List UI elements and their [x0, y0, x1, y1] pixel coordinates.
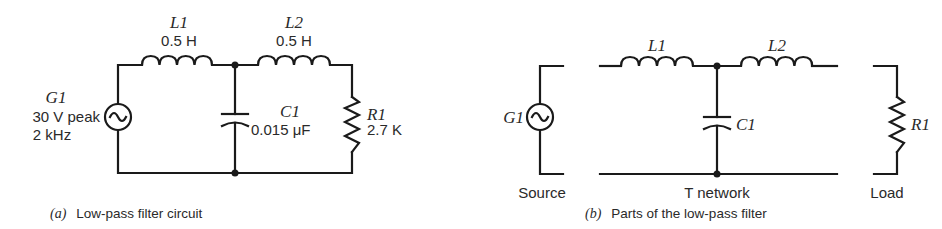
t-network-section: L1 L2 C1 T network — [600, 36, 837, 201]
resistor-r1-icon — [890, 97, 904, 152]
l2-value-label: 0.5 H — [276, 32, 312, 49]
inductor-l2-icon — [258, 56, 330, 65]
circuit-diagrams: L1 0.5 H L2 0.5 H G1 30 V peak 2 kHz C1 … — [0, 0, 942, 229]
l2-ref-label: L2 — [767, 36, 786, 55]
junction-dot-bottom — [232, 170, 239, 177]
g1-ref-label: G1 — [46, 88, 67, 107]
figure-a-low-pass-filter-circuit: L1 0.5 H L2 0.5 H G1 30 V peak 2 kHz C1 … — [32, 13, 402, 222]
figure-b-caption: (b) Parts of the low-pass filter — [585, 204, 767, 222]
l1-ref-label: L1 — [169, 13, 188, 32]
figure-b-parts-of-filter: G1 Source L1 L2 C1 T network — [503, 36, 930, 222]
junction-dot-top — [232, 62, 239, 69]
l2-ref-label: L2 — [284, 13, 303, 32]
c1-ref-label: C1 — [280, 102, 300, 121]
l1-ref-label: L1 — [647, 36, 666, 55]
source-g1-ref-label: G1 — [503, 108, 524, 127]
c1-value-label: 0.015 μF — [251, 121, 311, 138]
load-label: Load — [870, 184, 903, 201]
junction-dot-bottom — [714, 171, 721, 178]
inductor-l1-icon — [621, 57, 693, 66]
inductor-l2-icon — [741, 57, 812, 66]
r1-value-label: 2.7 K — [367, 121, 402, 138]
wire-top-right — [330, 65, 352, 97]
l1-value-label: 0.5 H — [161, 32, 197, 49]
ac-source-icon — [527, 104, 553, 130]
load-section: R1 Load — [870, 66, 930, 201]
t-network-label: T network — [684, 184, 750, 201]
source-section: G1 Source — [503, 66, 566, 201]
inductor-l1-icon — [142, 56, 212, 65]
c1-ref-label: C1 — [736, 115, 756, 134]
source-label: Source — [518, 184, 566, 201]
figure-a-caption: (a) Low-pass filter circuit — [50, 204, 203, 222]
ac-source-icon — [105, 104, 131, 130]
resistor-r1-icon — [345, 97, 359, 152]
wire-top-left — [118, 65, 142, 104]
g1-frequency-label: 2 kHz — [33, 126, 71, 143]
load-r1-ref-label: R1 — [910, 115, 930, 134]
junction-dot-top — [714, 63, 721, 70]
g1-amplitude-label: 30 V peak — [32, 108, 100, 125]
